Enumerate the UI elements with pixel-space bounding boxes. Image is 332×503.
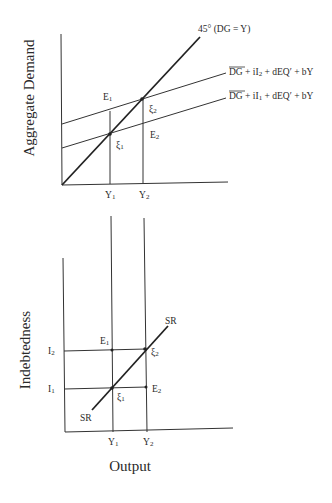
top-xi1-label: ξ1 — [116, 140, 124, 151]
upper-eq-a: + iI — [243, 67, 259, 77]
bottom-y-axis-title: Indebtedness — [17, 311, 33, 389]
y1-connector-line — [111, 216, 113, 432]
sr-label-top: SR — [165, 316, 177, 326]
bottom-e2-label: E2 — [152, 384, 162, 395]
top-y-axis — [61, 34, 62, 185]
lower-eq-a: + iI — [243, 91, 259, 101]
top-y-axis-title: Aggregate Demand — [21, 39, 37, 157]
forty-five-degree-label: 45° (DG = Y) — [198, 24, 250, 35]
upper-demand-label: DG + iI2 + dEQ′ + bY — [229, 67, 314, 78]
bottom-xi2-label: ξ2 — [151, 347, 159, 358]
upper-dg-bar: DG — [229, 67, 243, 77]
top-x-tick-y1: Y1 — [105, 190, 116, 201]
diagram-canvas: Aggregate Demand 45° (DG = Y) DG + iI2 +… — [0, 0, 332, 503]
bottom-xi1-point — [110, 386, 114, 390]
top-x-axis — [62, 182, 228, 185]
bottom-xi2-point — [143, 347, 147, 351]
bottom-x-tick-y1: Y1 — [108, 437, 119, 448]
bottom-y-axis — [63, 258, 65, 432]
sr-label-bottom: SR — [80, 413, 92, 423]
demand-line-lower — [62, 98, 226, 148]
bottom-x-tick-y2: Y2 — [143, 437, 154, 448]
y2-connector-line — [144, 218, 147, 432]
top-e2-label: E2 — [150, 130, 160, 141]
bottom-e1-label: E1 — [100, 336, 110, 347]
top-xi2-point — [140, 97, 144, 101]
lower-demand-label: DG + iI1 + dEQ′ + bY — [229, 91, 314, 102]
top-xi1-point — [108, 132, 112, 136]
bottom-e2-point — [145, 386, 148, 389]
bottom-e1-point — [111, 349, 114, 352]
i2-line — [64, 349, 146, 351]
forty-five-degree-line — [62, 37, 200, 185]
bottom-y-tick-i1: I1 — [48, 384, 55, 395]
i1-line — [64, 387, 147, 389]
top-chart: Aggregate Demand 45° (DG = Y) DG + iI2 +… — [21, 24, 314, 201]
top-xi2-label: ξ2 — [149, 104, 157, 115]
top-e1-label: E1 — [103, 92, 113, 103]
top-x-tick-y2: Y2 — [139, 190, 150, 201]
lower-eq-b: + dEQ′ + bY — [262, 91, 313, 101]
demand-line-upper — [62, 73, 226, 124]
upper-eq-b: + dEQ′ + bY — [262, 67, 313, 77]
bottom-y-tick-i2: I2 — [48, 346, 55, 357]
bottom-x-axis-title: Output — [109, 458, 152, 474]
lower-dg-bar: DG — [229, 91, 243, 101]
bottom-x-axis — [65, 428, 233, 432]
bottom-xi1-label: ξ1 — [117, 392, 125, 403]
bottom-chart: Indebtedness I2 I1 E1 ξ2 E2 ξ1 SR SR Y1 … — [17, 258, 233, 474]
